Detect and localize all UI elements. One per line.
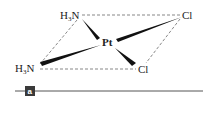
nh3-bottom-label: H3N (15, 62, 34, 76)
bond-pt-cl-bottom (115, 48, 136, 66)
bond-pt-nh3-bottom (40, 45, 101, 66)
bond-pt-cl-top (116, 17, 182, 42)
pt-label: Pt (102, 36, 113, 48)
cl-bottom-label: Cl (138, 63, 148, 75)
bond-pt-nh3-top (82, 19, 100, 40)
cl-top-label: Cl (182, 9, 192, 21)
nh3-top-label: H3N (60, 9, 79, 23)
cisplatin-diagram: H3N Pt Cl H3N Cl a (0, 0, 208, 117)
panel-label: a (28, 87, 33, 96)
